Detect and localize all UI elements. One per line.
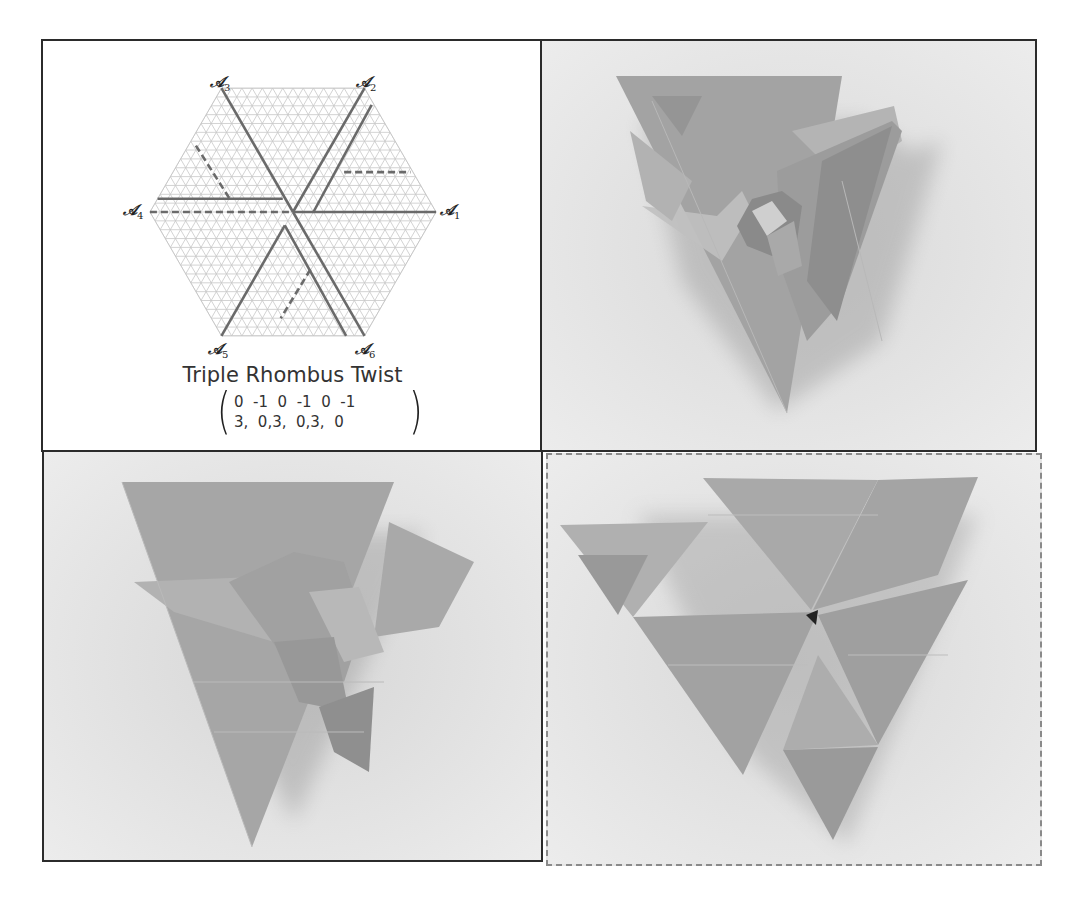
- axis-label-a6: 𝒜6: [355, 340, 375, 360]
- axis-label-a2: 𝒜2: [356, 73, 376, 93]
- axis-label-a5: 𝒜5: [208, 340, 228, 360]
- photo-flat-triangles-panel: [546, 453, 1042, 866]
- origami-photo-pinwheel: [44, 452, 543, 862]
- diagram-title: Triple Rhombus Twist: [43, 363, 542, 387]
- photo-folded-back-panel: [42, 450, 543, 862]
- axis-label-a3: 𝒜3: [210, 73, 230, 93]
- origami-photo-triangles: [548, 455, 1040, 864]
- matrix-bottom-row: 3, 0,3, 0,3, 0: [234, 413, 344, 431]
- matrix-top-row: 0 -1 0 -1 0 -1: [234, 393, 355, 411]
- photo-folded-front-panel: [540, 39, 1037, 452]
- origami-photo-twisted: [542, 41, 1037, 452]
- axis-label-a4: 𝒜4: [123, 201, 143, 221]
- matrix-left-paren: (: [217, 385, 231, 437]
- matrix-right-paren: ): [409, 385, 423, 437]
- axis-label-a1: 𝒜1: [440, 201, 460, 221]
- crease-diagram-panel: 𝒜3 𝒜2 𝒜4 𝒜1 𝒜5 𝒜6 Triple Rhombus Twist (…: [41, 39, 542, 452]
- twist-matrix: ( 0 -1 0 -1 0 -1 3, 0,3, 0,3, 0 ): [210, 391, 460, 439]
